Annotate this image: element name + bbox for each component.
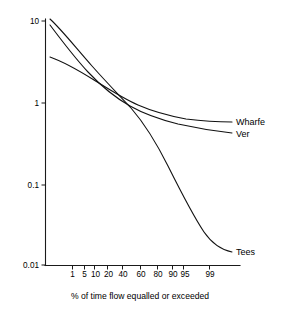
series-curve-tees [50,19,232,252]
x-tick-label: 20 [104,270,114,279]
y-tick-label: 10 [30,17,40,26]
y-axis-tick-labels: 10 1 0.1 0.01 [23,17,39,270]
x-tick-label: 60 [136,270,146,279]
series-label-tees: Tees [236,247,256,257]
series-curve-ver [50,25,232,133]
series-label-wharfe: Wharfe [236,117,265,127]
x-tick-label: 40 [118,270,128,279]
x-tick-label: 5 [82,270,87,279]
y-axis-ticks [42,21,46,265]
x-tick-label: 10 [91,270,101,279]
y-tick-label: 0.01 [23,261,39,270]
x-tick-label: 99 [205,270,215,279]
chart-canvas: 10 1 0.1 0.01 1 5 10 20 40 60 80 [0,0,293,318]
series-curve-wharfe [50,57,232,122]
x-axis-title: % of time flow equalled or exceeded [71,291,209,301]
x-tick-label: 90 [168,270,178,279]
x-tick-label: 1 [70,270,75,279]
flow-duration-chart: 10 1 0.1 0.01 1 5 10 20 40 60 80 [0,0,293,318]
x-tick-label: 95 [180,270,190,279]
x-axis-ticks [73,266,210,270]
series-label-ver: Ver [236,129,250,139]
x-axis-tick-labels: 1 5 10 20 40 60 80 90 95 99 [70,270,215,279]
y-tick-label: 0.1 [28,181,40,190]
y-tick-label: 1 [34,99,39,108]
x-tick-label: 80 [153,270,163,279]
